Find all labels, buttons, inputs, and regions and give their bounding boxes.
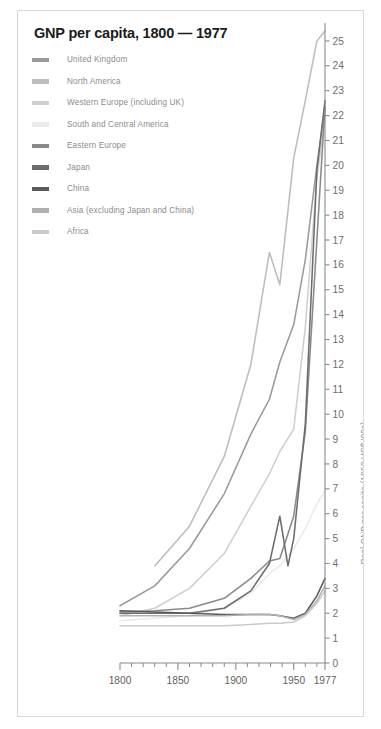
y-tick-label-18: 18: [333, 210, 345, 221]
y-tick-label-9: 9: [333, 434, 339, 445]
y-tick-label-15: 15: [333, 284, 345, 295]
series-line-japan: [120, 101, 325, 614]
x-tick-label-1900: 1900: [224, 675, 247, 686]
x-tick-label-1850: 1850: [167, 675, 190, 686]
y-tick-label-16: 16: [333, 259, 345, 270]
x-tick-label-1800: 1800: [109, 675, 132, 686]
y-tick-label-2: 2: [333, 608, 339, 619]
y-tick-label-8: 8: [333, 459, 339, 470]
y-tick-label-22: 22: [333, 110, 345, 121]
y-tick-label-1: 1: [333, 633, 339, 644]
chart-plot-area: 0123456789101112131415161718192021222324…: [18, 11, 364, 717]
x-tick-label-1950: 1950: [282, 675, 305, 686]
y-tick-label-23: 23: [333, 85, 345, 96]
y-tick-label-24: 24: [333, 60, 345, 71]
chart-figure: GNP per capita, 1800 — 1977 United Kingd…: [17, 10, 364, 717]
y-tick-label-21: 21: [333, 135, 345, 146]
x-tick-label-1977: 1977: [314, 675, 337, 686]
series-line-western-europe-including-uk: [120, 116, 325, 616]
y-tick-label-10: 10: [333, 409, 345, 420]
y-tick-label-4: 4: [333, 558, 339, 569]
y-tick-label-5: 5: [333, 533, 339, 544]
y-tick-label-20: 20: [333, 160, 345, 171]
y-tick-label-19: 19: [333, 185, 345, 196]
y-tick-label-7: 7: [333, 483, 339, 494]
y-tick-label-0: 0: [333, 658, 339, 669]
y-tick-label-12: 12: [333, 359, 345, 370]
y-axis-title: Real GNP per capita (1960 US$ '00s): [359, 422, 364, 565]
y-tick-label-3: 3: [333, 583, 339, 594]
y-tick-label-6: 6: [333, 508, 339, 519]
y-tick-label-25: 25: [333, 36, 345, 47]
y-tick-label-17: 17: [333, 235, 345, 246]
y-tick-label-13: 13: [333, 334, 345, 345]
y-tick-label-14: 14: [333, 309, 345, 320]
y-tick-label-11: 11: [333, 384, 344, 395]
